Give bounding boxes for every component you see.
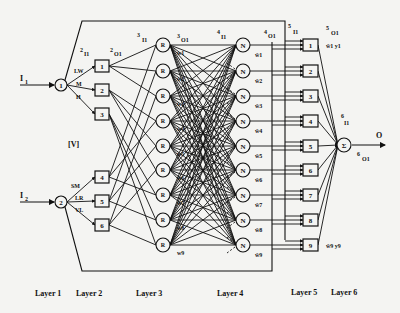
svg-text:I: I [20,191,23,200]
svg-text:6: 6 [309,167,313,175]
membership-label: SM [71,183,80,189]
layer4-weight-label: w̄5 [255,153,262,159]
layer4-norm-node: N [236,64,250,78]
layer4-out-sup: 4 [264,29,267,35]
layer2-node: 2 [95,84,109,96]
layer4-weight-label: w̄4 [255,128,262,134]
layer3-rule-node: R [156,163,170,177]
layer3-rule-node: R [156,64,170,78]
layer5-to-layer6-edges [318,45,338,245]
layer4-weight-label: w̄8 [255,227,262,233]
svg-text:2: 2 [59,199,63,207]
svg-text:1: 1 [59,82,63,90]
svg-text:N: N [240,42,245,50]
layer3-rule-node: R [156,89,170,103]
svg-text:N: N [240,68,245,76]
layer4-to-layer5-edges [250,41,303,249]
svg-text:R: R [161,167,166,173]
layer3-out-sup: 3 [177,33,180,39]
layer2-to-layer3-edges [109,45,156,245]
layer5-node: 8 [303,214,318,226]
membership-label: LR [75,195,84,201]
svg-text:2: 2 [100,87,104,95]
layer3-weight-label: w9 [177,250,184,256]
layer4-norm-node: N [236,213,250,227]
svg-text:6: 6 [100,222,104,230]
layer3-weight-label: w1 [177,50,184,56]
svg-text:R: R [161,242,166,248]
layer4-nodes: NNNNNNNNN [236,38,250,252]
svg-text:1: 1 [100,63,104,71]
layer-label-1: Layer 1 [35,289,61,298]
layer-label-5: Layer 5 [291,288,317,297]
membership-label: VL [75,207,83,213]
layer6-node: Σ [337,138,351,152]
svg-text:N: N [240,192,245,200]
layer3-in-label: I1 [142,37,147,43]
input-label-1: I 1 [20,74,28,85]
svg-text:I: I [20,74,23,83]
layer1-node: 2 [55,196,67,208]
svg-text:8: 8 [309,217,313,225]
layer4-norm-node: N [236,139,250,153]
layer4-norm-node: N [236,38,250,52]
layer3-weight-label: w6 [177,175,184,181]
input-arrows [20,85,54,202]
layer3-to-layer4-edges [170,45,236,245]
layer4-in-label: I1 [221,34,226,40]
layer3-out-label: O1 [181,37,189,43]
layer6-out-sup: 6 [357,151,360,157]
layer3-rule-node: R [156,213,170,227]
layer2-node: 4 [95,171,109,183]
layer3-weight-label: w4 [177,126,184,132]
sum-node: Σ [337,138,351,152]
layer4-out-label: O1 [268,33,276,39]
layer4-norm-node: N [236,238,250,252]
layer2-node: 1 [95,60,109,72]
layer5-node: 9 [303,239,318,251]
layer5-in-sup: 5 [288,23,291,29]
svg-text:Σ: Σ [342,142,347,150]
svg-text:R: R [161,118,166,124]
layer6-in-sup: 6 [341,113,344,119]
layer5-first-output: w̄1 y1 [326,43,341,49]
layer3-rule-node: R [156,238,170,252]
annotation-v: [V] [68,140,79,149]
svg-text:R: R [161,192,166,198]
layer2-node: 3 [95,108,109,120]
layer5-node: 1 [303,39,318,51]
layer4-weight-label: w̄1 [255,52,262,58]
membership-label: M [76,81,82,87]
svg-text:5: 5 [309,143,313,151]
svg-text:9: 9 [309,242,313,250]
svg-text:3: 3 [100,111,104,119]
svg-text:R: R [161,42,166,48]
layer2-node: 6 [95,219,109,231]
layer-label-4: Layer 4 [217,289,243,298]
svg-text:7: 7 [309,192,313,200]
layer3-weight-label: w7 [177,200,184,206]
svg-text:2: 2 [309,68,313,76]
layer4-in-sup: 4 [217,29,220,35]
layer4-weight-label: w̄3 [255,103,262,109]
layer2-nodes: 123456 [95,60,109,231]
svg-text:4: 4 [100,174,104,182]
layer-labels: Layer 1 Layer 2 Layer 3 Layer 4 Layer 5 … [35,288,357,298]
layer5-node: 7 [303,189,318,201]
layer3-rule-node: R [156,38,170,52]
layer4-norm-node: N [236,89,250,103]
svg-text:N: N [240,93,245,101]
layer3-weight-label: w2 [177,76,184,82]
layer5-last-output: w̄9 y9 [326,243,341,249]
svg-text:1: 1 [25,79,28,85]
svg-text:3: 3 [309,93,313,101]
svg-text:N: N [240,143,245,151]
layer3-rule-node: R [156,188,170,202]
layer5-node: 4 [303,115,318,127]
layer2-out-sup: 2 [110,47,113,53]
layer4-norm-node: N [236,188,250,202]
layer4-norm-node: N [236,163,250,177]
layer4-norm-node: N [236,114,250,128]
layer2-node: 5 [95,195,109,207]
layer2-out-label: O1 [114,51,122,57]
